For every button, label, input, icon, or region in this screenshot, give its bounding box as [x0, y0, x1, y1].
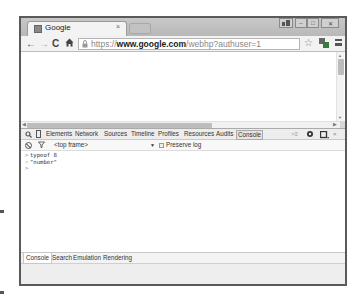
preserve-log-label: Preserve log [166, 141, 201, 148]
horizontal-scrollbar[interactable]: ◀ ▶ [21, 121, 340, 128]
url-text: https://www.google.com/webhp?authuser=1 [91, 39, 261, 49]
scroll-up-arrow-icon[interactable]: ▲ [338, 53, 342, 58]
minimize-button[interactable]: – [295, 18, 307, 28]
preserve-log-checkbox[interactable]: Preserve log [159, 140, 201, 150]
home-icon [65, 38, 74, 47]
console-prompt[interactable]: > [21, 165, 345, 172]
tab-close-icon[interactable]: × [116, 23, 120, 30]
tab-elements[interactable]: Elements [46, 129, 72, 139]
close-devtools-icon[interactable]: × [333, 129, 337, 139]
maximize-button[interactable]: □ [307, 18, 319, 28]
forward-button[interactable]: → [39, 37, 49, 50]
page-content: ▲ ▼ [21, 52, 345, 121]
tab-strip: Google × – □ ✕ [21, 18, 345, 36]
tab-title: Google [45, 23, 71, 32]
frame-selector[interactable]: <top frame> [54, 140, 88, 150]
browser-window: Google × – □ ✕ ← → C https://w [19, 16, 347, 286]
address-bar[interactable]: https://www.google.com/webhp?authuser=1 [78, 38, 300, 50]
extension-icon[interactable] [319, 38, 329, 48]
google-favicon-icon [34, 25, 42, 33]
new-tab-button[interactable] [129, 23, 151, 34]
tab-resources[interactable]: Resources [184, 129, 214, 139]
bookmark-star-icon[interactable]: ☆ [304, 37, 313, 48]
vertical-scroll-thumb[interactable] [338, 59, 344, 75]
window-controls: – □ ✕ [279, 18, 339, 28]
frame-dropdown-arrow-icon[interactable]: ▼ [150, 140, 155, 150]
console-toolbar: <top frame> ▼ Preserve log [21, 140, 345, 151]
home-button[interactable] [65, 37, 74, 50]
browser-toolbar: ← → C https://www.google.com/webhp?authu… [21, 36, 345, 52]
vertical-scrollbar[interactable]: ▲ ▼ [336, 52, 344, 121]
drawer-tab-rendering[interactable]: Rendering [103, 253, 132, 263]
screenshot-stage: Google × – □ ✕ ← → C https://w [0, 0, 364, 301]
console-output[interactable]: >typeof 8 <"number" > [21, 152, 345, 172]
tab-audits[interactable]: Audits [216, 129, 234, 139]
devtools-tab-bar: Elements Network Sources Timeline Profil… [21, 129, 345, 140]
drawer-tab-console[interactable]: Console [23, 253, 52, 264]
scroll-down-arrow-icon[interactable]: ▼ [338, 115, 342, 120]
drawer-tab-emulation[interactable]: Emulation [73, 253, 101, 263]
back-button[interactable]: ← [26, 37, 36, 50]
checkbox-icon[interactable] [159, 143, 164, 148]
device-mode-icon[interactable] [36, 130, 41, 138]
tab-network[interactable]: Network [75, 129, 98, 139]
filter-icon[interactable] [38, 141, 45, 151]
reload-button[interactable]: C [52, 37, 59, 50]
drawer-tab-search[interactable]: Search [52, 253, 72, 263]
tab-profiles[interactable]: Profiles [158, 129, 179, 139]
devtools-drawer: Console Search Emulation Rendering [21, 252, 345, 286]
gear-icon[interactable] [306, 130, 314, 138]
tab-timeline[interactable]: Timeline [131, 129, 155, 139]
dock-icon[interactable] [320, 131, 329, 139]
clear-console-icon[interactable] [25, 142, 32, 149]
show-drawer-icon[interactable]: >≡ [291, 129, 298, 139]
scroll-left-arrow-icon[interactable]: ◀ [22, 121, 26, 127]
scroll-right-arrow-icon[interactable]: ▶ [333, 121, 337, 127]
devtools-panel: Elements Network Sources Timeline Profil… [21, 128, 345, 286]
user-profile-icon[interactable] [279, 18, 293, 28]
chrome-menu-icon[interactable] [335, 39, 342, 46]
tab-sources[interactable]: Sources [104, 129, 127, 139]
tab-console[interactable]: Console [236, 130, 263, 140]
drawer-tab-bar: Console Search Emulation Rendering [21, 253, 345, 264]
crop-mark [0, 210, 4, 213]
browser-tab-google[interactable]: Google × [27, 21, 127, 36]
search-icon[interactable] [25, 131, 32, 138]
close-window-button[interactable]: ✕ [321, 18, 339, 28]
lock-icon [82, 40, 88, 48]
crop-mark [0, 291, 4, 294]
